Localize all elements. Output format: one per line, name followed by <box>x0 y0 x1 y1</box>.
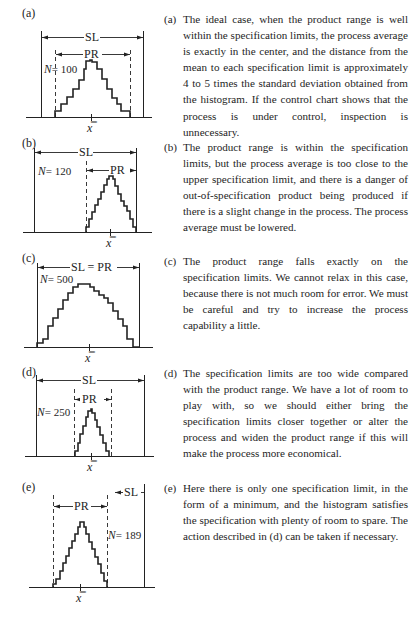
sample-size-label: N= 100 <box>44 63 77 75</box>
xbar-label: x̿ <box>106 236 111 251</box>
sample-size-label: N= 120 <box>38 165 71 177</box>
figure-panel-d: (d) SL PR N= 250 x̿ <box>0 365 165 485</box>
sl-label: SL <box>124 485 138 500</box>
description-tag: (c) <box>164 253 176 269</box>
figure-panel-e: (e) SL PR N= 189 x̿ <box>0 480 165 618</box>
pr-label: PR <box>110 163 125 178</box>
pr-label: PR <box>82 392 97 407</box>
figure-panel-a: (a) SL PR N= 100 x̿ <box>0 0 165 135</box>
description-d: (d) The specification limits are too wid… <box>164 365 408 462</box>
description-text: The ideal case, when the product range i… <box>164 11 408 140</box>
xbar-label: x̿ <box>76 591 81 606</box>
description-tag: (a) <box>164 11 176 27</box>
xbar-label: x̿ <box>87 460 92 475</box>
sl-label: SL <box>82 373 96 388</box>
xbar-label: x̿ <box>85 351 90 366</box>
description-text: Here there is only one specification lim… <box>164 480 408 544</box>
pr-label: PR <box>74 499 89 514</box>
sl-pr-label: SL = PR <box>71 260 112 275</box>
description-e: (e) Here there is only one specification… <box>164 480 408 544</box>
description-b: (b) The product range is within the spec… <box>164 139 408 236</box>
description-tag: (b) <box>164 139 177 155</box>
description-a: (a) The ideal case, when the product ran… <box>164 11 408 140</box>
pr-label: PR <box>84 47 99 62</box>
description-text: The specification limits are too wide co… <box>164 365 408 462</box>
sample-size-label: N= 189 <box>108 529 141 541</box>
description-tag: (e) <box>164 480 176 496</box>
xbar-label: x̿ <box>87 121 92 136</box>
sample-size-label: N= 500 <box>40 273 73 285</box>
figure-panel-b: (b) SL PR N= 120 x̿ <box>0 135 165 255</box>
description-c: (c) The product range falls exactly on t… <box>164 253 408 333</box>
description-text: The product range is within the specific… <box>164 139 408 236</box>
description-text: The product range falls exactly on the s… <box>164 253 408 333</box>
sl-label: SL <box>79 145 93 160</box>
sl-label: SL <box>85 30 99 45</box>
description-tag: (d) <box>164 365 177 381</box>
histogram-chart-a <box>0 0 165 135</box>
figure-panel-c: (c) SL = PR N= 500 x̿ <box>0 250 165 370</box>
sample-size-label: N= 250 <box>37 406 70 418</box>
